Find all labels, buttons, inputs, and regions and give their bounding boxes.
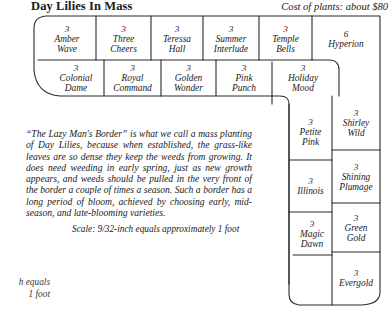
plant-qty: 3 <box>65 24 70 34</box>
plant-name: Amber Wave <box>55 34 80 54</box>
plant-cell[interactable]: 3 Temple Bells <box>259 18 312 60</box>
plant-cell[interactable]: 3 Pink Punch <box>216 61 272 95</box>
plant-qty: 3 <box>354 213 359 223</box>
plant-name: Magic Dawn <box>300 229 324 249</box>
plant-name: Holiday Mood <box>288 73 318 93</box>
plant-name: Evergold <box>339 278 373 288</box>
plant-name: Temple Bells <box>272 34 299 54</box>
plant-cell[interactable]: 3 Royal Command <box>104 61 161 95</box>
plant-name: Royal Command <box>113 73 152 93</box>
plant-cell[interactable]: 6 Hyperion <box>312 18 380 60</box>
cost-note: Cost of plants: about $80 <box>281 1 388 12</box>
plant-name: Summer Interlude <box>214 34 248 54</box>
plant-cell[interactable]: 3 Golden Wonder <box>161 61 216 95</box>
plant-qty: 3 <box>74 63 79 73</box>
plant-qty: 3 <box>308 176 313 186</box>
plant-name: Teressa Hall <box>163 34 191 54</box>
plant-qty: 3 <box>121 24 126 34</box>
plant-qty: 3 <box>354 268 359 278</box>
plant-name: Shirley Wild <box>343 118 370 138</box>
plant-qty: 3 <box>229 24 234 34</box>
plant-cell[interactable]: 3 Three Cheers <box>96 18 151 60</box>
plant-cell[interactable]: 3 Teressa Hall <box>151 18 203 60</box>
plant-cell[interactable]: 3 Petite Pink <box>289 105 332 159</box>
plant-cell[interactable]: 3 Green Gold <box>332 204 380 252</box>
plant-name: Pink Punch <box>232 73 256 93</box>
plant-name: Shining Plumage <box>339 172 372 192</box>
plant-cell[interactable]: 3 Evergold <box>332 253 380 303</box>
plant-qty: 3 <box>301 63 306 73</box>
plant-qty: 3 <box>186 63 191 73</box>
plant-cell[interactable]: 3 Shining Plumage <box>332 151 380 203</box>
plant-qty: 3 <box>354 108 359 118</box>
plant-qty: 6 <box>344 29 349 39</box>
plant-cell[interactable]: 3 Summer Interlude <box>203 18 259 60</box>
description-text: “The Lazy Man's Border” is what we call … <box>26 128 252 218</box>
plant-name: Golden Wonder <box>174 73 203 93</box>
plant-qty: 3 <box>354 162 359 172</box>
page-title: Day Lilies In Mass <box>31 0 132 14</box>
plant-qty: 3 <box>310 219 315 229</box>
plant-qty: 3 <box>242 63 247 73</box>
plant-name: Colonial Dame <box>60 73 93 93</box>
plant-cell[interactable]: 3 Colonial Dame <box>48 61 104 95</box>
plant-cell[interactable]: 3 Holiday Mood <box>272 61 334 95</box>
plant-name: Three Cheers <box>110 34 137 54</box>
cutoff-caption: h equals 1 foot <box>0 277 50 300</box>
plant-qty: 3 <box>283 24 288 34</box>
plant-cell[interactable]: 3 Shirley Wild <box>332 97 380 149</box>
plant-name: Hyperion <box>328 39 363 49</box>
plant-qty: 3 <box>130 63 135 73</box>
plant-cell[interactable]: 3 Magic Dawn <box>291 213 333 255</box>
plant-cell[interactable]: 3 Amber Wave <box>38 18 96 60</box>
plant-name: Illinois <box>297 186 324 196</box>
plant-qty: 3 <box>308 117 313 127</box>
plant-qty: 3 <box>175 24 180 34</box>
plant-cell[interactable]: 3 Illinois <box>289 161 332 211</box>
plant-name: Petite Pink <box>300 127 322 147</box>
plant-name: Green Gold <box>344 223 367 243</box>
scale-note: Scale: 9/32-inch equals approximately 1 … <box>72 224 239 234</box>
